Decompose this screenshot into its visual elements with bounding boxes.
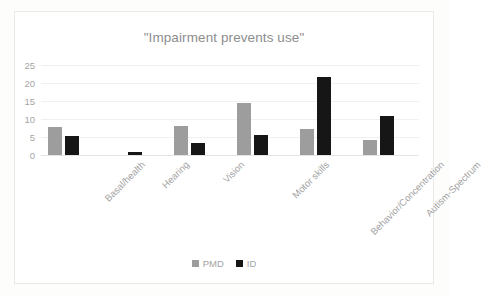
bar-pmd[interactable] [363, 140, 377, 155]
bar-id[interactable] [317, 77, 331, 155]
legend-label: PMD [203, 258, 224, 269]
bar-series-container [41, 65, 419, 155]
legend-item-pmd[interactable]: PMD [192, 258, 224, 269]
bar-group [230, 65, 293, 155]
bar-group [293, 65, 356, 155]
bar-group [356, 65, 419, 155]
bar-id[interactable] [128, 152, 142, 155]
bar-pmd[interactable] [300, 129, 314, 155]
x-axis-tick-label: Hearing [159, 159, 190, 190]
bar-pmd[interactable] [174, 126, 188, 155]
x-axis-tick-label: Vision [220, 159, 246, 185]
y-axis-tick-label: 0 [30, 150, 35, 161]
plot-area: 0510152025 [41, 65, 419, 155]
bar-group [41, 65, 104, 155]
y-axis-tick-label: 10 [24, 114, 35, 125]
x-axis-tick-label: Motor skills [289, 159, 330, 200]
chart-legend: PMDID [15, 258, 433, 269]
bar-id[interactable] [65, 136, 79, 155]
bar-group [167, 65, 230, 155]
y-axis-tick-label: 15 [24, 96, 35, 107]
x-axis-labels: Basal/healthHearingVisionMotor skillsBeh… [41, 159, 419, 259]
bar-pmd[interactable] [237, 103, 251, 155]
y-axis-tick-label: 5 [30, 132, 35, 143]
x-axis-tick-label: Basal/health [102, 159, 147, 204]
bar-group [104, 65, 167, 155]
chart-card: "Impairment prevents use" 0510152025 Bas… [14, 11, 434, 284]
legend-swatch-icon [236, 260, 243, 267]
bar-id[interactable] [191, 143, 205, 155]
bar-id[interactable] [380, 116, 394, 155]
legend-swatch-icon [192, 260, 199, 267]
y-axis-tick-label: 20 [24, 78, 35, 89]
x-axis-tick-label: Behavior/Concentration [368, 159, 446, 237]
axis-baseline [41, 155, 419, 156]
chart-title: "Impairment prevents use" [15, 30, 433, 45]
bar-id[interactable] [254, 135, 268, 155]
legend-label: ID [247, 258, 257, 269]
bar-pmd[interactable] [48, 127, 62, 155]
legend-item-id[interactable]: ID [236, 258, 257, 269]
y-axis-tick-label: 25 [24, 60, 35, 71]
